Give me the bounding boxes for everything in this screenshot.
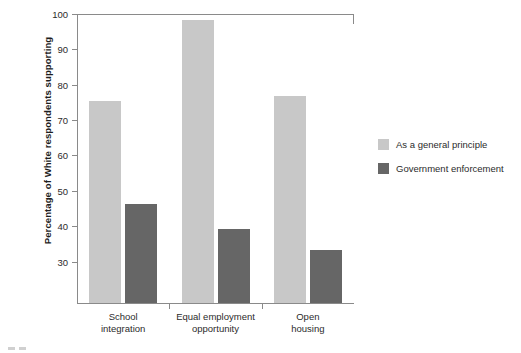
legend-label-2: Government enforcement xyxy=(396,163,504,174)
y-tick-70 xyxy=(72,120,77,121)
legend-swatch-icon-1 xyxy=(378,139,389,150)
x-category-label-line1: Open xyxy=(291,311,324,323)
x-category-label-line2: opportunity xyxy=(176,323,255,335)
bar-3-series-2 xyxy=(310,250,342,303)
right-axis-stub xyxy=(353,14,354,24)
x-category-label-line2: housing xyxy=(291,323,324,335)
legend-item-1[interactable]: As a general principle xyxy=(378,139,504,150)
y-tick-label-50: 50 xyxy=(57,185,68,196)
y-tick-50 xyxy=(72,191,77,192)
x-category-label-line1: School xyxy=(101,311,145,323)
x-category-label-1: Schoolintegration xyxy=(101,311,145,334)
bar-2-series-2 xyxy=(218,229,250,303)
x-category-label-3: Openhousing xyxy=(291,311,324,334)
y-tick-100 xyxy=(72,14,77,15)
y-tick-90 xyxy=(72,49,77,50)
legend-label-1: As a general principle xyxy=(396,139,487,150)
y-axis-title: Percentage of White respondents supporti… xyxy=(42,11,53,271)
legend-swatch-icon-2 xyxy=(378,163,389,174)
y-tick-label-90: 90 xyxy=(57,44,68,55)
x-tick-2 xyxy=(262,304,263,309)
bar-1-series-2 xyxy=(125,204,157,303)
legend-item-2[interactable]: Government enforcement xyxy=(378,163,504,174)
chart-legend: As a general principleGovernment enforce… xyxy=(378,139,504,187)
x-category-label-line1: Equal employment xyxy=(176,311,255,323)
bar-3-series-1 xyxy=(274,96,306,303)
y-tick-label-60: 60 xyxy=(57,150,68,161)
bar-2-series-1 xyxy=(182,20,214,303)
y-tick-label-100: 100 xyxy=(52,9,68,20)
x-category-label-line2: integration xyxy=(101,323,145,335)
y-tick-30 xyxy=(72,262,77,263)
x-axis-line xyxy=(77,303,354,304)
bar-1-series-1 xyxy=(89,101,121,303)
x-tick-1 xyxy=(169,304,170,309)
y-tick-label-70: 70 xyxy=(57,115,68,126)
y-tick-80 xyxy=(72,85,77,86)
y-axis-line xyxy=(77,14,78,304)
x-category-label-2: Equal employmentopportunity xyxy=(176,311,255,334)
y-tick-label-80: 80 xyxy=(57,79,68,90)
y-tick-label-30: 30 xyxy=(57,256,68,267)
top-rule-line xyxy=(77,14,354,15)
bar-chart-figure: Percentage of White respondents supporti… xyxy=(0,0,521,353)
y-tick-label-40: 40 xyxy=(57,221,68,232)
plot-area: 30405060708090100 xyxy=(77,14,354,304)
page-corner-artifact xyxy=(8,346,26,351)
y-tick-40 xyxy=(72,226,77,227)
y-tick-60 xyxy=(72,155,77,156)
